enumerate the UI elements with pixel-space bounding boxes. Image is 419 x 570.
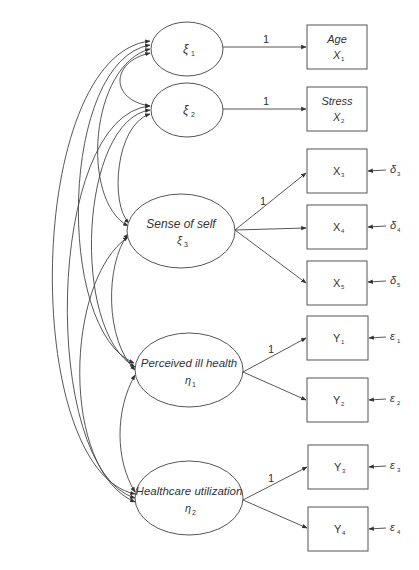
path-xi3-x4 bbox=[235, 228, 306, 230]
path-xi3-x5 bbox=[235, 230, 306, 283]
cov-xi3-eta2 bbox=[80, 237, 135, 502]
latent-sense-of-self: Sense of self ξ 3 bbox=[127, 194, 235, 268]
delta3: δ bbox=[390, 163, 397, 175]
sense-of-self-label: Sense of self bbox=[146, 217, 217, 231]
svg-text:3: 3 bbox=[397, 171, 401, 177]
sem-diagram: ξ 1 ξ 2 Sense of self ξ 3 Perceived ill … bbox=[0, 0, 419, 570]
svg-text:1: 1 bbox=[192, 381, 196, 388]
epsilon1: ε bbox=[390, 330, 395, 342]
svg-text:X: X bbox=[333, 165, 341, 177]
path-xi3-x3 bbox=[235, 173, 306, 230]
observed-stress: Stress X 2 bbox=[307, 87, 367, 131]
svg-text:η: η bbox=[185, 502, 191, 514]
observed-x4: X 4 bbox=[307, 205, 367, 249]
svg-text:Stress: Stress bbox=[321, 95, 353, 107]
svg-text:Y: Y bbox=[334, 461, 342, 473]
svg-text:Y: Y bbox=[334, 523, 342, 535]
perceived-ill-health-label: Perceived ill health bbox=[141, 357, 238, 369]
latent-perceived-ill-health: Perceived ill health η 1 bbox=[135, 333, 243, 407]
latent-xi1: ξ 1 bbox=[151, 22, 223, 76]
epsilon3: ε bbox=[390, 459, 395, 471]
svg-text:3: 3 bbox=[184, 241, 188, 248]
svg-text:X: X bbox=[333, 277, 341, 289]
svg-text:X: X bbox=[332, 49, 341, 61]
path-eta2-y4 bbox=[243, 500, 307, 528]
svg-text:3: 3 bbox=[397, 467, 401, 473]
xi1-symbol: ξ bbox=[183, 42, 189, 56]
svg-text:Age: Age bbox=[326, 33, 347, 45]
epsilon4: ε bbox=[390, 521, 395, 533]
healthcare-utilization-label: Healthcare utilization bbox=[136, 485, 243, 497]
svg-text:Y: Y bbox=[333, 394, 341, 406]
svg-text:1: 1 bbox=[263, 95, 269, 107]
epsilon2: ε bbox=[390, 392, 395, 404]
svg-text:1: 1 bbox=[263, 33, 269, 45]
cov-xi2-eta2 bbox=[67, 106, 150, 498]
svg-text:1: 1 bbox=[191, 50, 195, 57]
svg-text:2: 2 bbox=[397, 400, 401, 406]
observed-y4: Y 4 bbox=[308, 507, 368, 551]
path-eta1-y1 bbox=[243, 338, 306, 372]
cov-xi1-eta2 bbox=[52, 41, 150, 494]
path-eta2-y3 bbox=[243, 467, 307, 500]
cov-eta1-eta2 bbox=[120, 375, 135, 492]
delta4: δ bbox=[390, 219, 397, 231]
svg-text:5: 5 bbox=[397, 282, 401, 288]
svg-text:2: 2 bbox=[192, 509, 196, 516]
svg-text:1: 1 bbox=[268, 343, 274, 355]
cov-xi1-eta1 bbox=[78, 45, 150, 363]
svg-text:1: 1 bbox=[260, 195, 266, 207]
observed-x5: X 5 bbox=[307, 261, 367, 305]
covariance-arcs bbox=[52, 41, 150, 502]
svg-text:1: 1 bbox=[268, 472, 274, 484]
cov-xi1-xi2 bbox=[120, 53, 150, 106]
observed-y1: Y 1 bbox=[307, 316, 368, 360]
xi2-symbol: ξ bbox=[183, 103, 189, 117]
svg-text:X: X bbox=[332, 111, 341, 123]
delta5: δ bbox=[390, 274, 397, 286]
svg-text:4: 4 bbox=[397, 227, 401, 233]
path-eta1-y2 bbox=[243, 372, 306, 400]
cov-xi1-xi3 bbox=[98, 49, 150, 226]
svg-text:X: X bbox=[333, 221, 341, 233]
svg-text:η: η bbox=[185, 374, 191, 386]
error-terms: δ 3 δ 4 δ 5 ε 1 ε 2 ε 3 ε 4 bbox=[368, 163, 401, 535]
observed-y2: Y 2 bbox=[307, 378, 368, 422]
svg-text:Y: Y bbox=[333, 332, 341, 344]
latent-healthcare-utilization: Healthcare utilization η 2 bbox=[135, 461, 243, 535]
observed-age: Age X 1 bbox=[307, 25, 367, 69]
loading-paths: 1 1 1 1 1 bbox=[223, 33, 307, 528]
observed-x3: X 3 bbox=[307, 149, 367, 193]
latent-xi2: ξ 2 bbox=[151, 83, 223, 137]
svg-text:2: 2 bbox=[191, 111, 195, 118]
svg-text:1: 1 bbox=[397, 338, 401, 344]
observed-y3: Y 3 bbox=[308, 445, 368, 489]
svg-text:4: 4 bbox=[397, 529, 401, 535]
